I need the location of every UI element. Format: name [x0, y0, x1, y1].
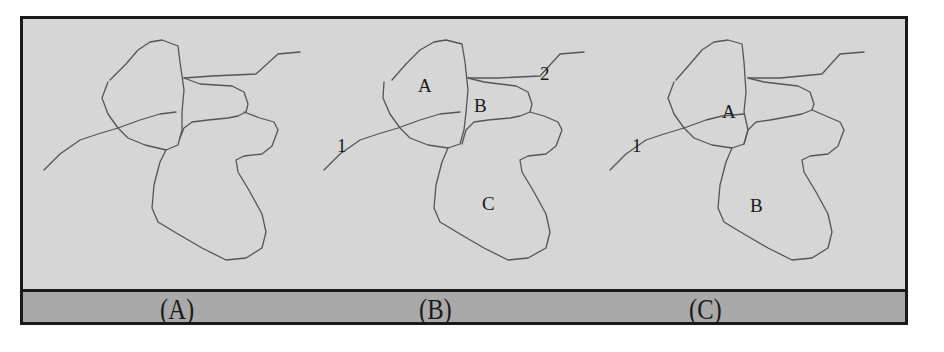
panel-b-region-label-a: A — [418, 75, 432, 96]
panel-c-region-label-a: A — [722, 101, 736, 122]
panel-a-region-middle — [180, 78, 248, 138]
panel-a-region-top — [102, 40, 184, 150]
panel-a-region-bottom — [152, 112, 278, 260]
panel-a-line — [44, 112, 176, 170]
panel-c-drawing: A B 1 — [610, 40, 864, 260]
panel-c-region-middle — [744, 78, 814, 144]
panel-c-line-label-1: 1 — [632, 135, 642, 156]
panel-b-region-c — [434, 112, 562, 260]
panel-b-drawing: A B C 1 2 — [324, 40, 584, 260]
panel-c-region-b — [718, 110, 844, 260]
panel-b-region-label-b: B — [474, 95, 487, 116]
panel-b-line-label-1: 1 — [337, 135, 347, 156]
panel-c-line-1 — [610, 114, 744, 170]
panel-b-line-2 — [468, 52, 584, 78]
panel-c-region-top — [668, 40, 748, 148]
panel-b-region-b — [462, 78, 532, 144]
panel-a-drawing — [44, 40, 300, 260]
panel-c-region-label-b: B — [750, 195, 763, 216]
panel-c-line-upper — [748, 52, 864, 78]
diagram-drawing: A B C 1 2 A B 1 — [0, 0, 944, 352]
panel-b-line-label-2: 2 — [540, 63, 550, 84]
panel-b-region-label-c: C — [482, 193, 495, 214]
panel-a-line-upper — [184, 52, 300, 78]
